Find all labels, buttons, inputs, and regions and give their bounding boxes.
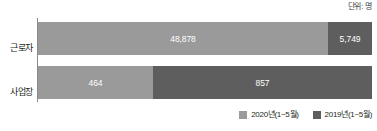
bar-segment-2019[interactable]: 857 (153, 66, 372, 99)
chart-legend: 2020년(1~5월) 2019년(1~5월) (0, 110, 372, 120)
legend-swatch-icon (313, 111, 321, 119)
bar-segment-2020[interactable]: 464 (38, 66, 153, 99)
legend-item-2020[interactable]: 2020년(1~5월) (239, 110, 298, 120)
bar-segment-2019[interactable]: 5,749 (328, 22, 372, 55)
bar-value-label: 5,749 (340, 34, 361, 44)
legend-swatch-icon (239, 111, 247, 119)
category-label-worker: 근로자 (0, 43, 33, 54)
bar-value-label: 48,878 (170, 34, 195, 44)
legend-label: 2020년(1~5월) (251, 110, 298, 120)
legend-item-2019[interactable]: 2019년(1~5월) (313, 110, 372, 120)
bar-chart: 단위: 명 근로자 48,878 5,749 사업장 464 857 (0, 0, 377, 131)
bar-row[interactable]: 48,878 5,749 (38, 22, 372, 55)
bar-segment-2020[interactable]: 48,878 (38, 22, 328, 55)
bar-value-label: 464 (89, 78, 103, 88)
plot-area: 근로자 48,878 5,749 사업장 464 857 (0, 16, 377, 102)
bar-row[interactable]: 464 857 (38, 66, 372, 99)
category-label-workplace: 사업장 (0, 87, 33, 98)
bar-value-label: 857 (256, 78, 270, 88)
unit-note: 단위: 명 (348, 2, 372, 12)
legend-label: 2019년(1~5월) (325, 110, 372, 120)
